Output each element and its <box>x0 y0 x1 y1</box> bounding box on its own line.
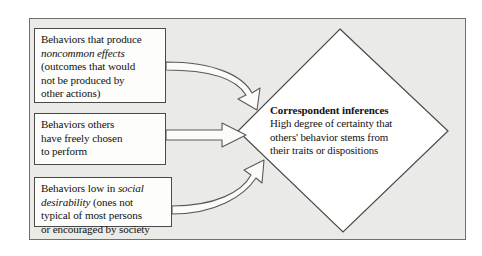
box3-emphasis-a: social <box>118 182 144 194</box>
box1-line-5: other actions) <box>41 87 160 101</box>
box1-line-4: not be produced by <box>41 74 160 88</box>
box1-line-2: noncommon effects <box>41 47 160 61</box>
box3-line-1-text: Behaviors low in <box>41 182 118 194</box>
diamond-heading: Correspondent inferences <box>270 104 435 117</box>
box3-line-1: Behaviors low in social <box>41 182 166 196</box>
box3-line-2-text: (ones not <box>90 196 133 208</box>
box2-line-2: have freely chosen <box>41 132 160 146</box>
diamond-body-line-1: High degree of certainty that <box>270 117 435 130</box>
diamond-body-line-3: their traits or dispositions <box>270 144 435 157</box>
box1-emphasis: noncommon effects <box>41 47 125 59</box>
box2-line-1: Behaviors others <box>41 118 160 132</box>
noncommon-effects-box: Behaviors that produce noncommon effects… <box>34 28 166 103</box>
box1-line-1: Behaviors that produce <box>41 33 160 47</box>
box3-line-4: or encouraged by society <box>41 223 166 237</box>
box2-line-3: to perform <box>41 145 160 159</box>
diagram-canvas: Behaviors that produce noncommon effects… <box>0 0 482 256</box>
social-desirability-box: Behaviors low in social desirability (on… <box>34 177 172 227</box>
box1-line-3: (outcomes that would <box>41 60 160 74</box>
freely-chosen-box: Behaviors others have freely chosen to p… <box>34 113 166 165</box>
box3-emphasis-b: desirability <box>41 196 90 208</box>
correspondent-inferences-label: Correspondent inferences High degree of … <box>270 104 435 158</box>
diamond-body-line-2: others' behavior stems from <box>270 131 435 144</box>
box3-line-2: desirability (ones not <box>41 196 166 210</box>
box3-line-3: typical of most persons <box>41 209 166 223</box>
